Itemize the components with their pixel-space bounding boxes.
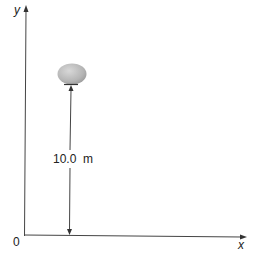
arrow-down-icon — [67, 229, 72, 235]
arrow-up-icon — [69, 85, 74, 91]
egg-icon — [58, 64, 87, 85]
diagram-canvas — [0, 0, 253, 253]
y-axis — [24, 5, 29, 236]
x-axis — [24, 235, 247, 240]
y-axis-label: y — [14, 3, 20, 17]
x-axis-label: x — [238, 238, 244, 252]
origin-label: 0 — [13, 235, 20, 249]
y-axis-arrow-icon — [24, 5, 29, 12]
height-label: 10.0 m — [53, 152, 93, 166]
